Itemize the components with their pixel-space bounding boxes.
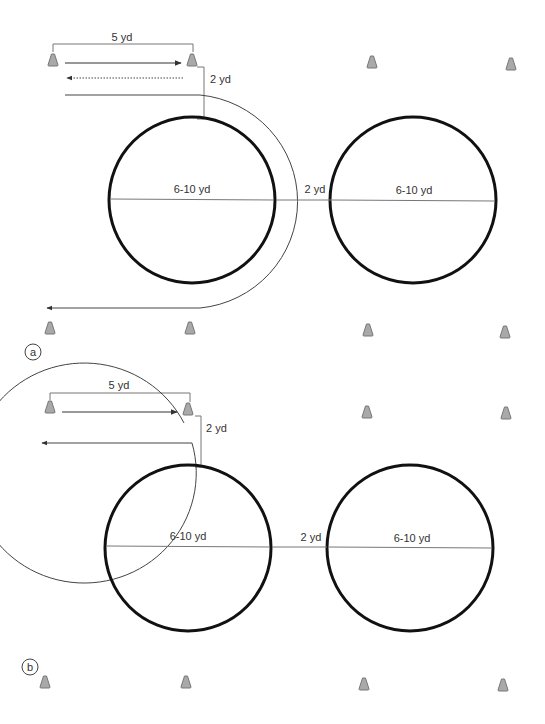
cone-icon [367,56,377,68]
gap-label: 2 yd [305,183,326,195]
cone-spacing-label: 5 yd [112,31,133,43]
cone-icon [359,678,369,690]
cone-icon [45,401,55,413]
hoop-1-diameter [106,546,270,547]
offset-label: 2 yd [210,73,231,85]
run-path-loop [0,363,196,583]
cone-icon [363,324,373,336]
cone-icon [500,326,510,338]
cone-icon [506,58,516,70]
hoop-2-label: 6-10 yd [394,532,431,544]
panel-b: 5 yd 2 yd 6-10 yd 2 yd 6-10 yd b [0,363,511,691]
hoop-2-diameter [328,547,492,548]
cone-icon [45,322,55,334]
hoop-2-label: 6-10 yd [396,184,433,196]
hoop-1-label: 6-10 yd [170,530,207,542]
cone-icon [362,406,372,418]
hoop-1-label: 6-10 yd [174,183,211,195]
cone-icon [185,322,195,334]
cone-icon [181,676,191,688]
cone-icon [187,54,197,66]
panel-label: a [30,346,37,358]
gap-label: 2 yd [301,531,322,543]
hoop-2-diameter [332,200,495,201]
cone-spacing-bracket [53,44,193,52]
cone-spacing-label: 5 yd [109,379,130,391]
run-path-around-hoop [47,95,298,308]
panel-label: b [27,661,33,673]
cone-icon [498,679,508,691]
cone-icon [183,403,193,415]
cone-icon [48,54,58,66]
offset-bracket [197,67,204,119]
cone-icon [501,407,511,419]
offset-label: 2 yd [206,422,227,434]
cone-icon [40,676,50,688]
drill-diagram: 5 yd 2 yd 6-10 yd 2 yd 6-10 yd a [0,0,545,724]
hoop-1-diameter [110,199,274,200]
hoop-1 [105,465,271,631]
panel-a: 5 yd 2 yd 6-10 yd 2 yd 6-10 yd a [25,31,516,360]
